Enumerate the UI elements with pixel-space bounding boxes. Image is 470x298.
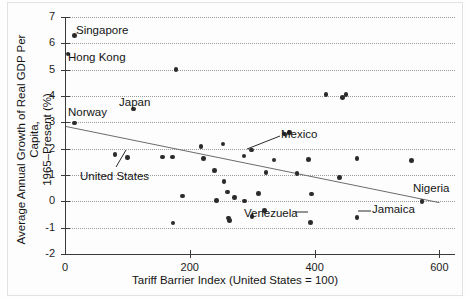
y-tick-5 <box>61 70 70 71</box>
data-point <box>214 198 219 203</box>
data-point <box>242 154 247 159</box>
y-axis-label: Average Annual Growth of Real GDP Per Ca… <box>15 20 54 260</box>
data-point-jamaica <box>355 215 360 220</box>
data-point <box>249 148 254 153</box>
data-point <box>409 158 414 163</box>
data-point <box>171 221 176 226</box>
gridline-y-6 <box>65 43 455 44</box>
x-tick-label-400: 400 <box>295 261 335 273</box>
data-point <box>222 179 227 184</box>
gridline-y-5 <box>65 70 455 71</box>
y-tick-2 <box>61 149 70 150</box>
annotation-singapore: Singapore <box>76 24 128 36</box>
y-tick--1 <box>61 228 70 229</box>
x-tick-label-600: 600 <box>419 261 459 273</box>
data-point <box>340 95 345 100</box>
data-point <box>221 142 226 147</box>
data-point <box>227 218 232 223</box>
data-point <box>264 170 269 175</box>
annotation-norway: Norway <box>68 106 107 118</box>
gridline-y--1 <box>65 228 455 229</box>
data-point <box>242 199 247 204</box>
data-point <box>113 152 118 157</box>
y-tick-0 <box>61 201 70 202</box>
gridline-y-7 <box>65 17 455 18</box>
data-point <box>232 195 237 200</box>
data-point <box>355 156 360 161</box>
annotation-hong-kong: Hong Kong <box>68 51 126 63</box>
data-point <box>160 155 165 160</box>
data-point <box>306 157 311 162</box>
annotation-nigeria: Nigeria <box>413 182 449 194</box>
data-point <box>225 190 230 195</box>
data-point-norway <box>72 121 77 126</box>
figure-container: -2-101234567 0200400600 SingaporeHong Ko… <box>0 0 470 298</box>
annotation-japan: Japan <box>119 96 150 108</box>
x-tick-label-0: 0 <box>45 261 85 273</box>
y-axis-label-line1: Average Annual Growth of Real GDP Per Ca… <box>15 20 41 260</box>
gridline-y-2 <box>65 149 455 150</box>
gridline-y-3 <box>65 122 455 123</box>
y-tick-1 <box>61 175 70 176</box>
data-point <box>170 155 175 160</box>
data-point-united-states <box>125 155 130 160</box>
data-point <box>324 92 329 97</box>
data-point <box>256 191 261 196</box>
y-tick-3 <box>61 122 70 123</box>
data-point <box>309 192 314 197</box>
annotation-jamaica: Jamaica <box>372 203 415 215</box>
data-point-venezuela <box>308 220 313 225</box>
data-point <box>337 175 342 180</box>
data-point <box>212 168 217 173</box>
trend-line <box>65 126 439 202</box>
x-tick-200 <box>190 250 191 258</box>
y-axis-label-line2: 1965–Present (%) <box>41 20 54 260</box>
data-point <box>272 158 277 163</box>
annotation-venezuela: Venezuela <box>244 207 298 219</box>
data-point <box>180 194 185 199</box>
data-point <box>201 156 206 161</box>
x-tick-label-200: 200 <box>170 261 210 273</box>
data-point <box>174 67 179 72</box>
y-tick-6 <box>61 43 70 44</box>
x-tick-600 <box>439 250 440 258</box>
annotation-united-states: United States <box>80 170 149 182</box>
y-tick-7 <box>61 17 70 18</box>
y-tick-4 <box>61 96 70 97</box>
y-axis-line <box>65 17 66 254</box>
y-tick--2 <box>61 254 70 255</box>
x-axis-line <box>65 254 455 255</box>
annotation-mexico: Mexico <box>281 128 317 140</box>
x-tick-400 <box>315 250 316 258</box>
data-point <box>199 144 204 149</box>
data-point-nigeria <box>420 199 425 204</box>
x-axis-label: Tariff Barrier Index (United States = 10… <box>0 274 470 286</box>
